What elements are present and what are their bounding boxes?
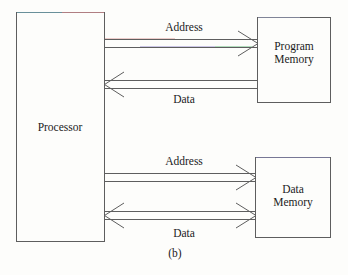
- data-address-bus: [105, 165, 257, 190]
- data-memory-block-label-line-2: Memory: [273, 196, 313, 209]
- data-address-bus-arrowhead: [236, 165, 256, 190]
- data-data-bus-label: Data: [173, 227, 195, 240]
- program-address-bus-arrowhead: [238, 31, 258, 56]
- data-data-bus-arrowhead-left: [105, 203, 125, 228]
- program-data-bus-label: Data: [173, 93, 195, 106]
- program-memory-block-label-line-1: Program: [274, 40, 314, 53]
- program-data-bus-arrowhead: [105, 72, 125, 97]
- program-address-bus-label: Address: [165, 21, 203, 34]
- program-memory-block-label-line-2: Memory: [274, 53, 314, 66]
- data-data-bus-arrowhead-right: [236, 203, 256, 228]
- data-memory-block-label: Data Memory: [273, 183, 313, 209]
- data-address-bus-label: Address: [165, 155, 203, 168]
- program-memory-block-label: Program Memory: [274, 40, 314, 66]
- processor-block-label: Processor: [38, 121, 83, 134]
- program-address-bus: [105, 31, 259, 56]
- data-memory-block-label-line-1: Data: [273, 183, 313, 196]
- figure-caption: (b): [168, 247, 181, 260]
- data-data-bus: [105, 203, 257, 228]
- harvard-architecture-diagram: Processor Program Memory Data Memory Add…: [0, 0, 348, 275]
